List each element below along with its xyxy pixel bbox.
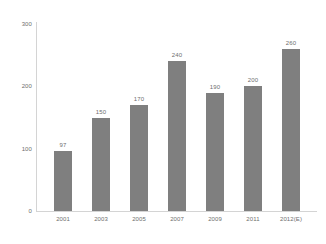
y-tick-label: 100 — [22, 145, 32, 152]
x-tick-label: 2012(E) — [273, 216, 309, 223]
x-tick-label: 2009 — [197, 216, 233, 223]
bar-group[interactable] — [197, 93, 233, 211]
bar[interactable] — [130, 105, 148, 211]
bar-value-label: 200 — [235, 77, 271, 84]
bar-chart: 300 200 100 0 97 2001 150 2003 170 2005 … — [0, 0, 326, 244]
bar[interactable] — [282, 49, 300, 211]
bar-group[interactable] — [235, 86, 271, 211]
bar-group[interactable] — [45, 151, 81, 211]
bar[interactable] — [206, 93, 224, 211]
y-tick-label: 300 — [22, 21, 32, 28]
x-tick-label: 2003 — [83, 216, 119, 223]
bar[interactable] — [54, 151, 72, 211]
bar-value-label: 150 — [83, 109, 119, 116]
bar[interactable] — [168, 61, 186, 211]
bar-value-label: 97 — [45, 142, 81, 149]
bar-value-label: 170 — [121, 96, 157, 103]
y-tick-label: 200 — [22, 83, 32, 90]
bar-value-label: 190 — [197, 84, 233, 91]
bar[interactable] — [244, 86, 262, 211]
bar-group[interactable] — [121, 105, 157, 211]
bars-layer: 97 2001 150 2003 170 2005 240 2007 190 2… — [36, 0, 317, 244]
bar-value-label: 240 — [159, 52, 195, 59]
x-tick-label: 2011 — [235, 216, 271, 223]
y-tick-label: 0 — [29, 208, 32, 215]
bar[interactable] — [92, 118, 110, 212]
x-tick-label: 2005 — [121, 216, 157, 223]
bar-group[interactable] — [83, 118, 119, 212]
bar-group[interactable] — [159, 61, 195, 211]
x-tick-label: 2007 — [159, 216, 195, 223]
x-tick-label: 2001 — [45, 216, 81, 223]
y-axis-tick-labels: 300 200 100 0 — [0, 0, 32, 244]
bar-group[interactable] — [273, 49, 309, 211]
bar-value-label: 260 — [273, 40, 309, 47]
